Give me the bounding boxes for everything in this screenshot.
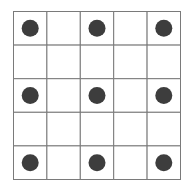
dot bbox=[155, 20, 172, 37]
dot bbox=[22, 154, 39, 171]
grid-cell bbox=[114, 12, 147, 46]
dot bbox=[89, 87, 106, 104]
grid-svg bbox=[13, 11, 181, 180]
grid-cell bbox=[147, 112, 180, 146]
grid-cell bbox=[47, 45, 80, 79]
grid-cell bbox=[14, 112, 47, 146]
grid-cell bbox=[147, 45, 180, 79]
grid-cell bbox=[114, 146, 147, 180]
grid-cell bbox=[114, 79, 147, 113]
grid-cell bbox=[114, 45, 147, 79]
grid-cell bbox=[80, 112, 113, 146]
grid-cell bbox=[114, 112, 147, 146]
grid-cell bbox=[14, 45, 47, 79]
dot bbox=[22, 87, 39, 104]
dot bbox=[155, 87, 172, 104]
grid-cell bbox=[47, 79, 80, 113]
grid-cell bbox=[80, 45, 113, 79]
dot bbox=[89, 20, 106, 37]
dot bbox=[155, 154, 172, 171]
dot bbox=[22, 20, 39, 37]
grid-cell bbox=[47, 12, 80, 46]
grid-cell bbox=[47, 146, 80, 180]
dot bbox=[89, 154, 106, 171]
dot-grid-diagram bbox=[13, 11, 180, 179]
grid-cell bbox=[47, 112, 80, 146]
